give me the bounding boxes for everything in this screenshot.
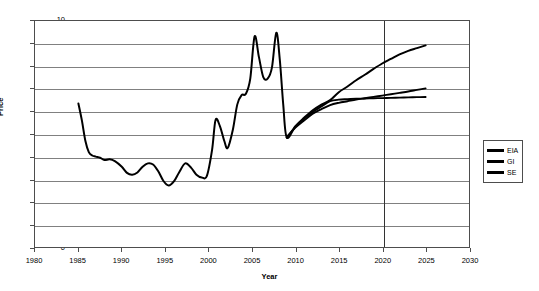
legend-label: GI — [507, 158, 514, 165]
x-tick-label: 2005 — [232, 257, 272, 265]
x-tick-label: 1990 — [101, 257, 141, 265]
x-tick-label: 1985 — [58, 257, 98, 265]
legend-swatch-icon — [487, 160, 504, 163]
legend-swatch-icon — [487, 149, 504, 152]
x-tick-label: 2000 — [188, 257, 228, 265]
x-tick-mark — [383, 248, 384, 252]
x-tick-mark — [470, 248, 471, 252]
x-tick-label: 1980 — [14, 257, 54, 265]
y-axis-title: Price — [0, 98, 5, 116]
series-lines — [35, 21, 469, 247]
x-tick-label: 2020 — [363, 257, 403, 265]
series-line-eia — [78, 33, 425, 186]
x-tick-mark — [252, 248, 253, 252]
x-tick-mark — [78, 248, 79, 252]
x-tick-label: 2015 — [319, 257, 359, 265]
legend-item-gi[interactable]: GI — [487, 156, 519, 167]
x-tick-mark — [208, 248, 209, 252]
plot-area — [34, 20, 470, 248]
chart-container: Price Year 012345678910 1980198519901995… — [0, 0, 539, 291]
x-tick-mark — [121, 248, 122, 252]
legend-label: SE — [507, 169, 516, 176]
x-tick-label: 2010 — [276, 257, 316, 265]
x-tick-label: 2025 — [406, 257, 446, 265]
series-line-gi — [287, 88, 426, 137]
legend-item-eia[interactable]: EIA — [487, 145, 519, 156]
legend-swatch-icon — [487, 171, 504, 174]
x-tick-mark — [165, 248, 166, 252]
chart-legend: EIAGISE — [483, 140, 523, 183]
x-tick-label: 2030 — [450, 257, 490, 265]
x-tick-mark — [339, 248, 340, 252]
legend-label: EIA — [507, 147, 518, 154]
x-tick-mark — [34, 248, 35, 252]
x-axis-title: Year — [0, 272, 539, 281]
x-tick-label: 1995 — [145, 257, 185, 265]
legend-item-se[interactable]: SE — [487, 167, 519, 178]
x-tick-mark — [296, 248, 297, 252]
x-tick-mark — [426, 248, 427, 252]
